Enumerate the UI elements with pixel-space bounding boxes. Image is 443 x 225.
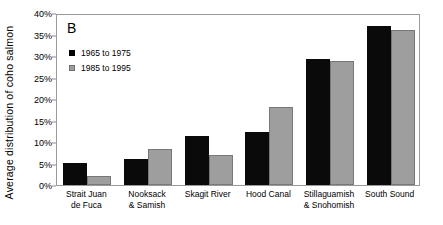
bar-group (63, 15, 111, 185)
bar-group (185, 15, 233, 185)
x-category-label-line: South Sound (359, 189, 420, 200)
y-tick-label: 35% (34, 31, 52, 41)
y-tick-label: 40% (34, 9, 52, 19)
bar-group (306, 15, 354, 185)
x-category-label-line: Stillaguamish (299, 189, 360, 200)
bar-group (124, 15, 172, 185)
x-category-label-line: Strait Juan (56, 189, 117, 200)
bar (63, 163, 87, 185)
x-category-label-line: & Snohomish (299, 200, 360, 211)
x-category-label: Hood Canal (238, 189, 299, 200)
x-category-label: Nooksack& Samish (117, 189, 178, 211)
x-category-label-line: de Fuca (56, 200, 117, 211)
plot-inner: B 1965 to 19751985 to 1995 (57, 15, 419, 185)
x-category-label: Stillaguamish& Snohomish (299, 189, 360, 211)
y-axis-tick-labels: 0%5%10%15%20%25%30%35%40% (22, 14, 52, 186)
x-category-label-line: & Samish (117, 200, 178, 211)
y-tick-label: 10% (34, 138, 52, 148)
x-category-label: Skagit River (177, 189, 238, 200)
bar (87, 176, 111, 185)
x-category-label: Strait Juande Fuca (56, 189, 117, 211)
x-category-label-line: Hood Canal (238, 189, 299, 200)
bar (148, 149, 172, 185)
bar (306, 59, 330, 185)
chart-figure: Average distribution of coho salmon 0%5%… (0, 0, 443, 225)
bar (269, 107, 293, 185)
bar (185, 136, 209, 185)
y-tick-label: 0% (39, 181, 52, 191)
bar (245, 132, 269, 185)
bar (367, 26, 391, 185)
x-axis-category-labels: Strait Juande FucaNooksack& SamishSkagit… (56, 189, 420, 223)
y-tick-label: 15% (34, 117, 52, 127)
y-tick-label: 5% (39, 160, 52, 170)
plot-area: B 1965 to 19751985 to 1995 (56, 14, 420, 186)
y-tick-label: 25% (34, 74, 52, 84)
y-tick-label: 20% (34, 95, 52, 105)
bar-group (245, 15, 293, 185)
bar (391, 30, 415, 185)
y-tick-label: 30% (34, 52, 52, 62)
y-axis-title: Average distribution of coho salmon (0, 0, 18, 225)
x-category-label-line: Skagit River (177, 189, 238, 200)
bar (124, 159, 148, 185)
bar-group (367, 15, 415, 185)
x-category-label-line: Nooksack (117, 189, 178, 200)
bar (330, 61, 354, 185)
x-category-label: South Sound (359, 189, 420, 200)
bar (209, 155, 233, 185)
